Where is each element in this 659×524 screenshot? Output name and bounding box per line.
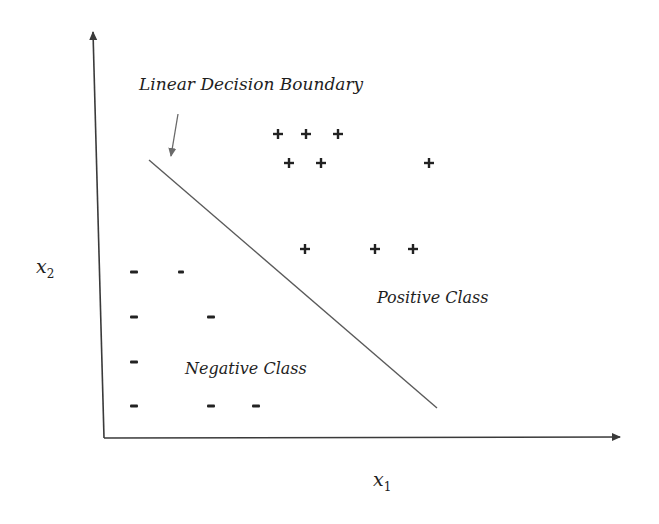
boundary-annotation-label: Linear Decision Boundary bbox=[138, 74, 364, 94]
positive-point-plus-icon bbox=[284, 158, 294, 168]
positive-point-plus-icon bbox=[273, 129, 283, 139]
boundary-pointer-arrow-icon bbox=[171, 114, 178, 156]
positive-point-plus-icon bbox=[408, 244, 418, 254]
positive-point-plus-icon bbox=[301, 129, 311, 139]
positive-point-plus-icon bbox=[316, 158, 326, 168]
negative-point-minus-icon bbox=[130, 316, 138, 319]
negative-point-minus-icon bbox=[130, 361, 138, 364]
negative-point-minus-icon bbox=[130, 271, 138, 274]
negative-points bbox=[130, 271, 260, 408]
negative-point-minus-icon bbox=[178, 271, 184, 274]
positive-point-plus-icon bbox=[370, 244, 380, 254]
decision-boundary-diagram: Linear Decision Boundary Positive Class … bbox=[0, 0, 659, 524]
positive-point-plus-icon bbox=[333, 129, 343, 139]
y-axis-label: x2 bbox=[36, 255, 54, 281]
negative-point-minus-icon bbox=[207, 316, 215, 319]
negative-point-minus-icon bbox=[252, 405, 260, 408]
negative-class-label: Negative Class bbox=[184, 359, 307, 378]
y-axis bbox=[93, 32, 104, 438]
x-axis bbox=[104, 437, 620, 438]
negative-point-minus-icon bbox=[207, 405, 215, 408]
positive-points bbox=[273, 129, 434, 254]
positive-point-plus-icon bbox=[300, 244, 310, 254]
positive-class-label: Positive Class bbox=[376, 288, 489, 307]
negative-point-minus-icon bbox=[130, 405, 138, 408]
x-axis-label: x1 bbox=[373, 468, 391, 494]
positive-point-plus-icon bbox=[424, 158, 434, 168]
